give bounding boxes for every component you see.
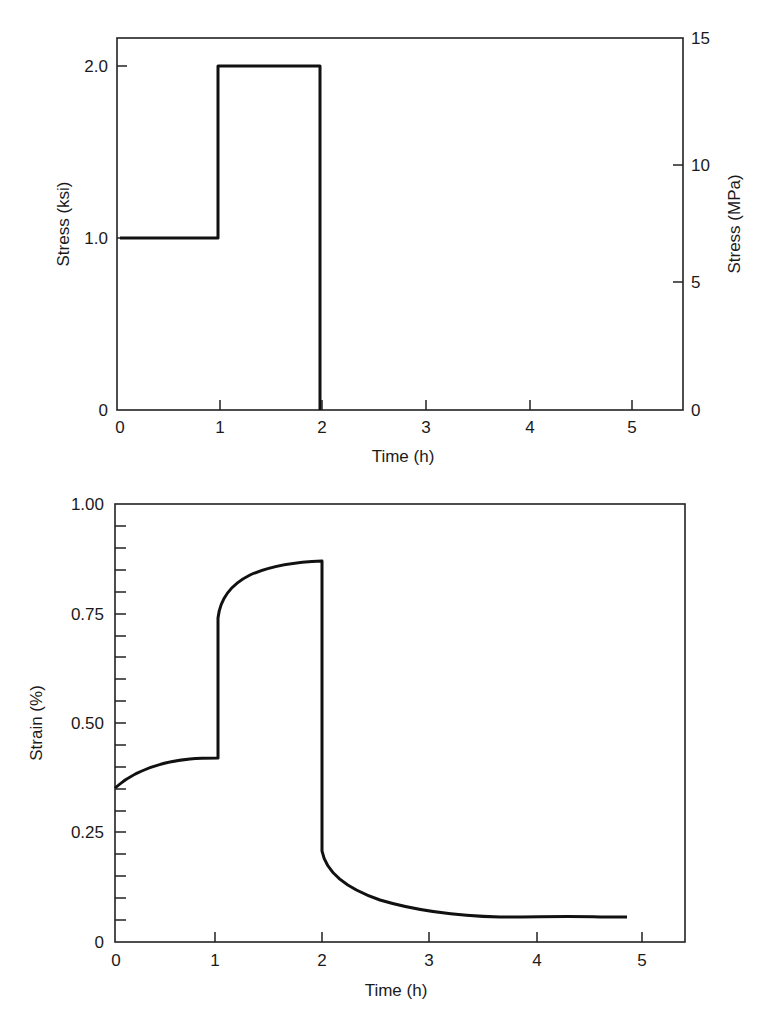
strain-chart: 0 0.25 0.50 0.75 1.00 0 1 2 3 4 5 Time (…	[27, 495, 685, 1000]
stress-x-tick-4: 4	[525, 418, 534, 437]
strain-y-ticks	[115, 526, 126, 920]
stress-step-line	[120, 66, 320, 410]
stress-x-tick-2: 2	[317, 418, 326, 437]
stress-mpa-ticks	[673, 165, 683, 282]
strain-plot-frame	[115, 504, 685, 942]
stress-ksi-axis-label: Stress (ksi)	[54, 182, 73, 267]
stress-x-ticks	[220, 400, 632, 410]
mpa-tick-15: 15	[691, 29, 710, 48]
ksi-tick-0: 0	[99, 401, 108, 420]
strain-x-tick-3: 3	[424, 951, 433, 970]
strain-y-tick-075: 0.75	[71, 605, 104, 624]
strain-x-tick-1: 1	[210, 951, 219, 970]
mpa-tick-0: 0	[691, 401, 700, 420]
strain-x-tick-5: 5	[637, 951, 646, 970]
stress-x-tick-3: 3	[421, 418, 430, 437]
stress-chart: 0 1.0 2.0 0 5 10 15 0 1 2 3 4 5 Time (h)…	[54, 29, 744, 466]
strain-response-curve	[115, 561, 627, 917]
stress-x-tick-1: 1	[215, 418, 224, 437]
stress-ksi-ticks	[117, 66, 127, 238]
strain-x-tick-4: 4	[532, 951, 541, 970]
mpa-tick-5: 5	[691, 273, 700, 292]
strain-x-axis-label: Time (h)	[365, 981, 428, 1000]
strain-y-tick-050: 0.50	[71, 714, 104, 733]
stress-mpa-axis-label: Stress (MPa)	[725, 174, 744, 273]
figure-canvas: 0 1.0 2.0 0 5 10 15 0 1 2 3 4 5 Time (h)…	[0, 0, 773, 1030]
strain-y-tick-100: 1.00	[71, 495, 104, 514]
ksi-tick-1: 1.0	[84, 229, 108, 248]
ksi-tick-2: 2.0	[84, 57, 108, 76]
stress-x-tick-0: 0	[115, 418, 124, 437]
strain-y-tick-0: 0	[95, 933, 104, 952]
stress-x-tick-5: 5	[627, 418, 636, 437]
strain-x-tick-2: 2	[317, 951, 326, 970]
stress-plot-frame	[117, 38, 683, 410]
strain-x-tick-0: 0	[111, 951, 120, 970]
strain-x-ticks	[215, 932, 642, 942]
strain-y-tick-025: 0.25	[71, 823, 104, 842]
strain-y-axis-label: Strain (%)	[27, 685, 46, 761]
mpa-tick-10: 10	[691, 156, 710, 175]
stress-x-axis-label: Time (h)	[372, 447, 435, 466]
